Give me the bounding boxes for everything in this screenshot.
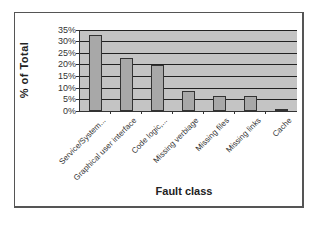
x-tick-mark [203, 111, 204, 114]
bar-missing-verbiage [182, 91, 195, 111]
gridline [80, 41, 297, 42]
y-axis-title: % of Total [18, 42, 30, 99]
bar-graphical-user-interface [120, 58, 133, 111]
bar-missing-files [213, 96, 226, 111]
bar-service-system [89, 35, 102, 111]
x-tick-mark [265, 111, 266, 114]
y-tick-label: 35% [46, 26, 76, 35]
bar-missing-links [244, 96, 257, 111]
y-tick-label: 10% [46, 84, 76, 93]
x-tick-mark [172, 111, 173, 114]
y-tick-label: 20% [46, 60, 76, 69]
gridline [80, 53, 297, 54]
y-tick-label: 25% [46, 49, 76, 58]
plot-area [79, 30, 297, 112]
bar-cache [275, 109, 288, 111]
x-axis-title: Fault class [0, 185, 323, 197]
gridline [80, 30, 297, 31]
x-tick-mark [234, 111, 235, 114]
gridline [80, 88, 297, 89]
y-tick-label: 0% [46, 107, 76, 116]
gridline [80, 64, 297, 65]
x-tick-mark [110, 111, 111, 114]
y-tick-label: 30% [46, 37, 76, 46]
y-tick-label: 5% [46, 95, 76, 104]
bar-code-logic [151, 65, 164, 111]
y-tick-label: 15% [46, 72, 76, 81]
x-tick-mark [141, 111, 142, 114]
gridline [80, 76, 297, 77]
